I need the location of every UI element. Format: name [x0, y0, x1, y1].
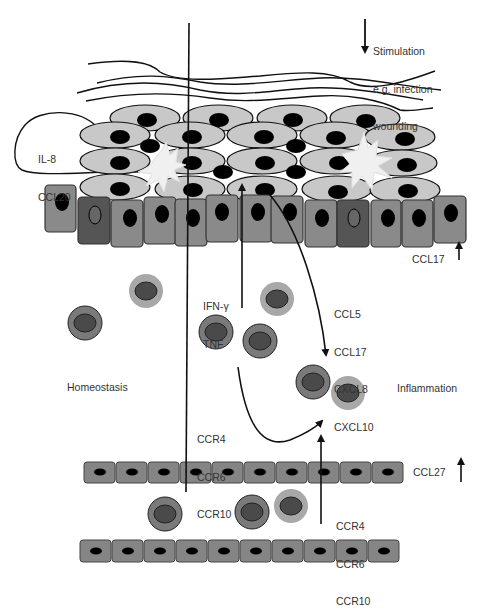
vessel-endothelium-upper: [84, 462, 403, 483]
basal-ccl17-label: CCL17: [412, 253, 445, 266]
upper-receptors-label: CCR4 CCR6 CCR10: [197, 408, 231, 533]
lower-receptors-label: CCR4 CCR6 CCR10: [336, 495, 370, 609]
inflammation-label: Inflammation: [397, 382, 457, 395]
lymphocyte-light-ring: [129, 274, 365, 523]
ccl27-label: CCL27: [413, 466, 446, 479]
cytokines-label: IFN-γ TNF: [203, 275, 229, 363]
divider-line: [186, 23, 189, 492]
homeostasis-label: Homeostasis: [67, 381, 128, 394]
inflammatory-chemokines-label: CCL5 CCL17 CXCL8 CXCL10: [334, 283, 374, 446]
epidermal-chemokines-label: IL-8 CCL20: [38, 128, 71, 216]
stimulation-label: Stimulation e.g. infection wounding: [373, 20, 433, 145]
